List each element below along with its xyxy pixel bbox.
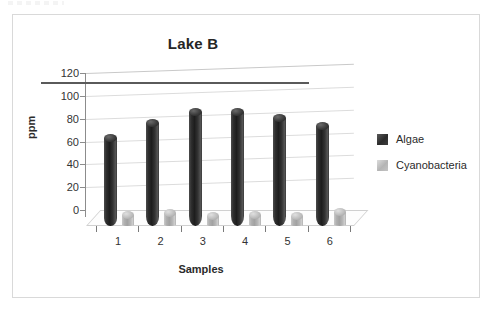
x-axis-tick-mark — [181, 226, 182, 232]
chart-title: Lake B — [13, 35, 373, 52]
bar-algae-5 — [273, 114, 286, 226]
x-axis-tick-mark — [96, 226, 97, 232]
bar-cyanobacteria-2 — [164, 209, 176, 226]
gridline — [86, 132, 354, 142]
x-axis-tick-label: 1 — [103, 235, 133, 247]
bar-cyanobacteria-1 — [122, 211, 134, 226]
y-axis-tick-mark — [80, 142, 85, 143]
x-axis-tick-label: 2 — [146, 235, 176, 247]
y-axis-tick-mark — [80, 210, 85, 211]
gridline — [86, 109, 354, 119]
bar-cyanobacteria-6 — [334, 208, 346, 226]
gridline — [86, 64, 354, 74]
y-axis-tick-mark — [80, 187, 85, 188]
legend-item-label: Algae — [396, 133, 424, 145]
legend-item-algae[interactable]: Algae — [377, 133, 477, 145]
x-axis-tick-label: 6 — [315, 235, 345, 247]
bar-cap — [104, 134, 117, 142]
bar-body — [231, 112, 244, 226]
y-axis-tick-label: 40 — [39, 158, 79, 170]
chart-container: Lake B ppm 020406080100120 123456 Sample… — [12, 14, 480, 298]
x-axis-tick-mark — [350, 226, 351, 232]
bar-body — [104, 138, 117, 226]
x-axis-tick-mark — [265, 226, 266, 232]
bar-algae-2 — [146, 119, 159, 226]
y-axis-tick-label: 80 — [39, 113, 79, 125]
bar-cap — [316, 122, 329, 130]
y-axis-tick-label: 120 — [39, 67, 79, 79]
y-axis-tick-label: 0 — [39, 204, 79, 216]
bar-body — [316, 126, 329, 226]
chart-legend: AlgaeCyanobacteria — [377, 133, 477, 185]
gridline — [86, 86, 354, 96]
x-axis-title: Samples — [41, 263, 361, 275]
scan-artifact — [8, 1, 64, 5]
y-axis-tick-label: 100 — [39, 90, 79, 102]
legend-swatch-icon — [377, 160, 388, 171]
bar-body — [146, 123, 159, 226]
x-axis-tick-label: 3 — [188, 235, 218, 247]
x-axis-tick-mark — [223, 226, 224, 232]
y-axis-tick-mark — [80, 96, 85, 97]
x-axis-tick-label: 5 — [273, 235, 303, 247]
bar-cyanobacteria-5 — [291, 212, 303, 226]
legend-swatch-icon — [377, 134, 388, 145]
x-axis-tick-label: 4 — [230, 235, 260, 247]
bar-body — [273, 118, 286, 226]
legend-item-cyanobacteria[interactable]: Cyanobacteria — [377, 159, 477, 171]
y-axis-title: ppm — [25, 116, 37, 139]
bar-algae-4 — [231, 108, 244, 226]
y-axis-tick-mark — [80, 164, 85, 165]
x-axis-tick-mark — [138, 226, 139, 232]
bar-body — [189, 112, 202, 226]
y-axis-tick-mark — [80, 119, 85, 120]
x-axis-tick-mark — [308, 226, 309, 232]
gridline — [86, 178, 354, 188]
bar-cap — [146, 119, 159, 127]
bar-cyanobacteria-3 — [207, 212, 219, 226]
plot-area: ppm 020406080100120 123456 Samples — [41, 67, 361, 267]
bar-cap — [334, 208, 346, 216]
y-axis-tick-label: 20 — [39, 181, 79, 193]
bar-algae-3 — [189, 108, 202, 226]
legend-item-label: Cyanobacteria — [396, 159, 467, 171]
bar-algae-1 — [104, 134, 117, 226]
bar-cyanobacteria-4 — [249, 211, 261, 226]
y-axis-line — [85, 73, 86, 217]
gridline — [86, 155, 354, 165]
y-axis-tick-mark — [80, 73, 85, 74]
bar-algae-6 — [316, 122, 329, 226]
x-axis-line — [41, 82, 309, 84]
y-axis-tick-label: 60 — [39, 136, 79, 148]
